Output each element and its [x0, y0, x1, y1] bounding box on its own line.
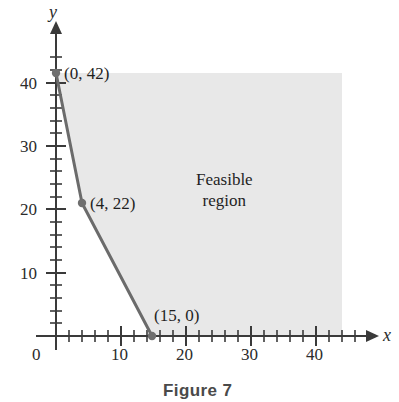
- y-tick-label-30: 30: [20, 137, 37, 157]
- x-tick-label-30: 30: [241, 345, 258, 365]
- vertex-dot-4-22: [78, 199, 86, 207]
- y-tick-label-40: 40: [20, 74, 37, 94]
- y-tick-label-20: 20: [20, 200, 37, 220]
- y-tick-label-10: 10: [20, 264, 37, 284]
- x-tick-label-20: 20: [176, 345, 193, 365]
- figure-caption: Figure 7: [163, 381, 232, 401]
- figure-7-container: y x 40 30 20 10 0 10 20 30 40 (0, 42) (4…: [0, 0, 399, 402]
- vertex-dot-15-0: [148, 332, 156, 340]
- vertex-label-15-0: (15, 0): [154, 306, 199, 326]
- vertex-dot-0-42: [52, 69, 60, 77]
- x-tick-label-40: 40: [306, 345, 323, 365]
- x-tick-label-10: 10: [111, 345, 128, 365]
- feasible-region-annotation-line-2: region: [196, 190, 253, 211]
- vertex-label-0-42: (0, 42): [64, 64, 109, 84]
- vertex-label-4-22: (4, 22): [90, 194, 135, 214]
- feasible-region-annotation-line-1: Feasible: [196, 169, 253, 190]
- y-axis-label: y: [49, 2, 57, 23]
- x-axis-arrowhead: [366, 330, 379, 342]
- feasible-region-annotation: Feasible region: [196, 169, 253, 212]
- x-axis-label: x: [383, 325, 391, 346]
- origin-label: 0: [32, 345, 41, 365]
